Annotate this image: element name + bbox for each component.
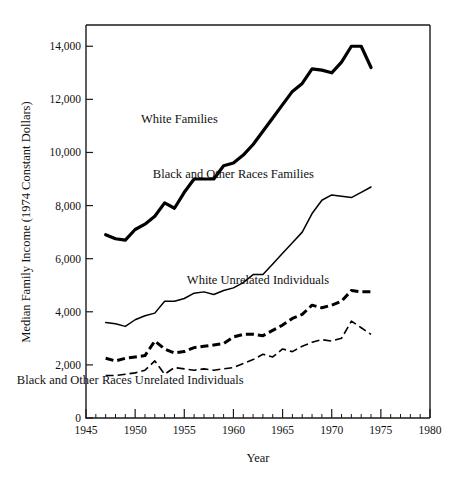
series-annotation-0: White Families (141, 112, 218, 126)
x-tick-label: 1970 (320, 424, 343, 436)
y-tick-label: 8,000 (55, 200, 81, 213)
x-tick-label: 1980 (419, 424, 442, 436)
y-tick-label: 4,000 (55, 306, 81, 319)
y-tick-label: 0 (75, 412, 81, 424)
series-annotation-2: White Unrelated Individuals (187, 273, 329, 287)
chart-figure: 02,0004,0006,0008,00010,00012,00014,000 … (0, 0, 454, 480)
y-tick-label: 14,000 (49, 40, 81, 53)
x-axis-title: Year (246, 451, 270, 465)
x-tick-label: 1975 (369, 424, 392, 436)
y-tick-label: 2,000 (55, 359, 81, 372)
y-tick-label: 10,000 (49, 146, 81, 159)
x-tick-label: 1960 (222, 424, 245, 436)
x-tick-label: 1955 (173, 424, 196, 436)
y-tick-label: 12,000 (49, 93, 81, 106)
median-family-income-line-chart: 02,0004,0006,0008,00010,00012,00014,000 … (0, 0, 454, 480)
x-tick-label: 1950 (124, 424, 147, 436)
chart-background (0, 0, 454, 480)
x-tick-label: 1945 (75, 424, 98, 436)
x-tick-label: 1965 (271, 424, 294, 436)
series-annotation-3: Black and Other Races Unrelated Individu… (17, 373, 244, 387)
y-tick-label: 6,000 (55, 253, 81, 266)
series-annotation-1: Black and Other Races Families (153, 167, 314, 181)
y-axis-title: Median Family Income (1974 Constant Doll… (19, 101, 33, 342)
